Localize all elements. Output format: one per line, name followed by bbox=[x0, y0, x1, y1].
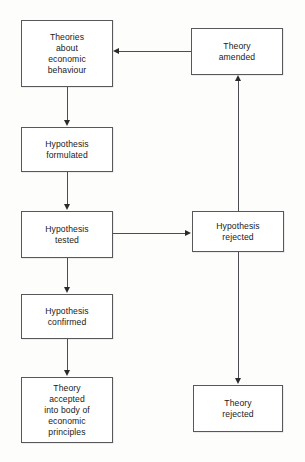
edge-tested-to-rejected-line bbox=[113, 233, 186, 234]
edge-rejected-to-theory-rejected-line bbox=[238, 252, 239, 378]
edge-tested-to-confirmed-line bbox=[67, 258, 68, 288]
node-hypothesis-formulated[interactable]: Hypothesis formulated bbox=[21, 127, 113, 172]
node-label-line: formulated bbox=[42, 150, 92, 161]
node-label: Theory rejected bbox=[216, 398, 259, 420]
node-label-line: Hypothesis bbox=[42, 224, 92, 235]
node-label-line: Theories bbox=[45, 32, 90, 43]
node-label: Hypothesis confirmed bbox=[39, 306, 95, 328]
edge-theories-to-formulated-arrowhead bbox=[64, 120, 70, 126]
node-label-line: Hypothesis bbox=[213, 221, 263, 232]
node-label-line: economic bbox=[41, 416, 93, 427]
edge-amended-to-theories-arrowhead bbox=[113, 48, 119, 54]
node-label-line: economic bbox=[45, 54, 90, 65]
node-label: Hypothesis tested bbox=[39, 224, 95, 246]
edge-rejected-to-theory-rejected-arrowhead bbox=[235, 378, 241, 384]
node-theory-amended[interactable]: Theory amended bbox=[191, 28, 283, 75]
node-label-line: Theory bbox=[41, 383, 93, 394]
node-label: Hypothesis rejected bbox=[210, 221, 266, 243]
edge-confirmed-to-accepted-arrowhead bbox=[64, 370, 70, 376]
edge-confirmed-to-accepted-line bbox=[67, 339, 68, 371]
node-label: Theories about economic behaviour bbox=[42, 32, 93, 76]
node-theory-accepted-into-body-of-economic-principles[interactable]: Theory accepted into body of economic pr… bbox=[21, 377, 113, 443]
node-hypothesis-tested[interactable]: Hypothesis tested bbox=[21, 211, 113, 258]
node-label-line: confirmed bbox=[42, 317, 92, 328]
node-label-line: Theory bbox=[219, 398, 256, 409]
edge-formulated-to-tested-line bbox=[67, 172, 68, 205]
node-label-line: about bbox=[45, 43, 90, 54]
node-label: Theory amended bbox=[213, 41, 262, 63]
node-label-line: tested bbox=[42, 235, 92, 246]
edge-rejected-to-amended-line bbox=[238, 81, 239, 211]
node-hypothesis-confirmed[interactable]: Hypothesis confirmed bbox=[21, 294, 113, 339]
node-label-line: principles bbox=[41, 427, 93, 438]
edge-amended-to-theories-line bbox=[119, 51, 191, 52]
edge-tested-to-confirmed-arrowhead bbox=[64, 287, 70, 293]
node-label-line: accepted bbox=[41, 394, 93, 405]
edge-rejected-to-amended-arrowhead bbox=[235, 75, 241, 81]
node-label-line: rejected bbox=[213, 232, 263, 243]
node-label-line: rejected bbox=[219, 409, 256, 420]
node-label: Hypothesis formulated bbox=[39, 139, 95, 161]
edge-theories-to-formulated-line bbox=[67, 87, 68, 121]
node-label-line: Hypothesis bbox=[42, 139, 92, 150]
edge-tested-to-rejected-arrowhead bbox=[185, 230, 191, 236]
node-label: Theory accepted into body of economic pr… bbox=[38, 383, 96, 438]
node-hypothesis-rejected[interactable]: Hypothesis rejected bbox=[192, 211, 284, 252]
edge-formulated-to-tested-arrowhead bbox=[64, 204, 70, 210]
node-theories-about-economic-behaviour[interactable]: Theories about economic behaviour bbox=[21, 20, 113, 87]
node-label-line: Hypothesis bbox=[42, 306, 92, 317]
flowchart-canvas: Theories about economic behaviour Theory… bbox=[0, 0, 305, 462]
node-label-line: Theory bbox=[216, 41, 259, 52]
node-label-line: behaviour bbox=[45, 65, 90, 76]
node-label-line: into body of bbox=[41, 405, 93, 416]
node-label-line: amended bbox=[216, 52, 259, 63]
node-theory-rejected[interactable]: Theory rejected bbox=[193, 385, 283, 432]
